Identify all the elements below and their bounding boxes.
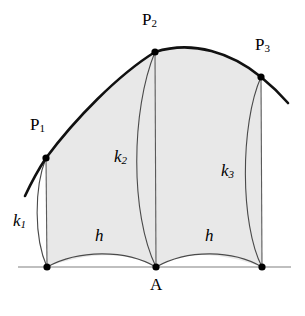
label-k3-subscript: 3 (229, 168, 235, 180)
label-k3: k3 (221, 162, 234, 180)
figure-container: P1 P2 P3 k1 k2 k3 h h A (0, 0, 305, 316)
label-p2: P2 (142, 11, 157, 29)
label-h-right: h (205, 227, 214, 244)
label-h-left: h (95, 227, 104, 244)
label-k1-subscript: 1 (21, 218, 27, 230)
arc-k1 (37, 158, 47, 267)
point-a (152, 263, 159, 270)
point-p3 (257, 73, 264, 80)
point-p1 (42, 154, 49, 161)
label-p3-subscript: 3 (264, 42, 270, 54)
label-k1-text: k (13, 211, 21, 230)
label-p1: P1 (30, 116, 45, 134)
shaded-region (46, 47, 262, 267)
label-a: A (150, 276, 162, 293)
point-b3 (258, 263, 265, 270)
label-k1: k1 (13, 212, 26, 230)
point-b1 (43, 263, 50, 270)
point-p2 (151, 48, 158, 55)
label-k2-text: k (114, 147, 122, 166)
label-k2-subscript: 2 (122, 154, 128, 166)
label-k3-text: k (221, 161, 229, 180)
label-k2: k2 (114, 148, 127, 166)
label-p2-subscript: 2 (151, 17, 157, 29)
label-p1-subscript: 1 (39, 122, 45, 134)
label-p3: P3 (255, 36, 270, 54)
